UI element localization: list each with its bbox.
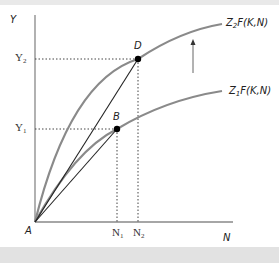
point-d-label: D	[134, 40, 142, 51]
n1-tick-label: N1	[112, 226, 123, 240]
arrow-head-icon	[191, 39, 196, 45]
point-b	[114, 126, 120, 132]
z1-curve-label: Z1F(K,N)	[229, 85, 271, 98]
point-b-label: B	[113, 111, 120, 122]
y2-tick-label: Y2	[15, 51, 26, 65]
x-axis-label: N	[223, 232, 230, 243]
z2-curve-label: Z2F(K,N)	[226, 17, 268, 30]
point-d	[135, 56, 141, 62]
z1-production-curve	[35, 91, 222, 222]
y1-tick-label: Y1	[15, 121, 26, 135]
n2-tick-label: N2	[133, 226, 144, 240]
ray-to-d	[35, 59, 138, 222]
y-axis-label: Y	[10, 14, 16, 25]
origin-label: A	[25, 225, 32, 236]
